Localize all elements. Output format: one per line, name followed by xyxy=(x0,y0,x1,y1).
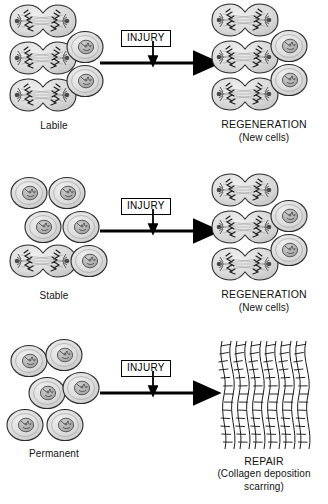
injury-arrow-svg xyxy=(96,38,212,98)
collagen-fiber-bundle xyxy=(218,341,310,449)
labile-cells-svg xyxy=(0,0,108,120)
collagen-fiber xyxy=(278,341,295,449)
dividing-cell xyxy=(212,174,278,206)
dividing-cell xyxy=(212,41,278,73)
dividing-cell xyxy=(10,5,76,37)
injury-arrow-svg xyxy=(96,368,212,428)
resting-cell xyxy=(11,346,47,377)
stable-injury-panel: INJURY xyxy=(96,168,212,336)
collagen-fiber xyxy=(248,341,265,449)
dividing-cell xyxy=(212,78,278,110)
collagen-fiber xyxy=(233,341,250,449)
permanent-cell-group: Permanent xyxy=(0,336,108,504)
resting-cell xyxy=(29,378,65,409)
stable-cell-group: Stable xyxy=(0,168,108,336)
resting-cell xyxy=(46,340,82,371)
collagen-fibers-svg xyxy=(200,336,328,452)
stable-outcome-group: REGENERATION (New cells) xyxy=(200,168,328,336)
resting-cell xyxy=(63,373,99,404)
dividing-cell xyxy=(10,79,76,111)
resting-cell xyxy=(49,178,85,209)
injury-arrow-svg xyxy=(96,206,212,266)
resting-cell xyxy=(271,235,307,266)
collagen-fiber xyxy=(218,341,235,449)
row-labile: Labile INJURY xyxy=(0,0,328,168)
permanent-injury-panel: INJURY xyxy=(96,336,212,504)
labile-label: Labile xyxy=(0,120,108,132)
regeneration-sublabel: (New cells) xyxy=(200,132,328,144)
resting-cell xyxy=(47,410,83,441)
regeneration-cells-svg xyxy=(200,168,328,288)
permanent-label: Permanent xyxy=(0,448,108,460)
regeneration-label: REGENERATION xyxy=(200,288,328,300)
resting-cell xyxy=(271,31,307,62)
stable-cells-svg xyxy=(0,168,108,290)
resting-cell xyxy=(7,410,43,441)
permanent-cells-svg xyxy=(0,336,108,448)
resting-cell xyxy=(271,201,307,232)
labile-injury-panel: INJURY xyxy=(96,0,212,168)
dividing-cell xyxy=(212,4,278,36)
dividing-cell xyxy=(10,245,76,277)
resting-cell xyxy=(271,65,307,96)
labile-outcome-group: REGENERATION (New cells) xyxy=(200,0,328,168)
dividing-cell xyxy=(212,211,278,243)
regeneration-cells-svg xyxy=(200,0,328,118)
regeneration-sublabel: (New cells) xyxy=(200,302,328,314)
repair-sublabel: (Collagen deposition xyxy=(200,468,328,480)
repair-label: REPAIR xyxy=(200,455,328,467)
collagen-fiber xyxy=(293,341,310,449)
row-stable: Stable INJURY REGENERATION (New cells) xyxy=(0,168,328,336)
row-permanent: Permanent INJURY xyxy=(0,336,328,504)
repair-sublabel-2: scarring) xyxy=(200,481,328,493)
tissue-injury-diagram: Labile INJURY xyxy=(0,0,328,504)
dividing-cell xyxy=(212,248,278,280)
permanent-outcome-group: REPAIR (Collagen deposition scarring) xyxy=(200,336,328,504)
dividing-cell xyxy=(10,42,76,74)
labile-cell-group: Labile xyxy=(0,0,108,168)
resting-cell xyxy=(11,178,47,209)
collagen-fiber xyxy=(263,341,280,449)
regeneration-label: REGENERATION xyxy=(200,118,328,130)
resting-cell xyxy=(63,212,99,243)
resting-cell xyxy=(25,212,61,243)
stable-label: Stable xyxy=(0,290,108,302)
